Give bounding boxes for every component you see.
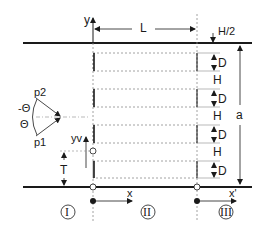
plate-2: D H	[93, 89, 227, 123]
channel-diagram: y L H/2 a D H D H D	[0, 0, 265, 235]
region-1-label: I	[65, 205, 69, 219]
svg-text:H: H	[213, 73, 222, 87]
plate-1: D H	[93, 53, 227, 87]
height-label: a	[236, 108, 243, 122]
svg-text:H: H	[213, 145, 222, 159]
y-axis-label: y	[84, 13, 90, 27]
region-3-label: III	[220, 205, 232, 219]
svg-text:D: D	[218, 92, 227, 106]
plate-3: D H	[93, 125, 227, 159]
t-label: T	[60, 163, 68, 177]
p2-arrow	[36, 98, 60, 116]
probe-point	[90, 148, 96, 154]
length-label: L	[140, 21, 147, 35]
svg-text:D: D	[218, 164, 227, 178]
svg-text:D: D	[218, 128, 227, 142]
half-gap-label: H/2	[218, 25, 235, 37]
region-2-label: II	[143, 205, 151, 219]
yv-label: yv	[71, 132, 83, 144]
svg-text:H: H	[213, 109, 222, 123]
p2-label: p2	[34, 86, 46, 98]
x-axis-label: x	[127, 187, 133, 199]
origin-left-wall	[90, 184, 96, 190]
x-prime-axis-label: x'	[229, 187, 237, 199]
plate-4: D	[93, 161, 227, 178]
p1-label: p1	[34, 136, 46, 148]
svg-text:D: D	[218, 56, 227, 70]
origin-right-wall	[194, 184, 200, 190]
theta-label: Θ	[20, 118, 29, 130]
neg-theta-label: -Θ	[18, 102, 31, 114]
p1-arrow	[36, 118, 60, 136]
